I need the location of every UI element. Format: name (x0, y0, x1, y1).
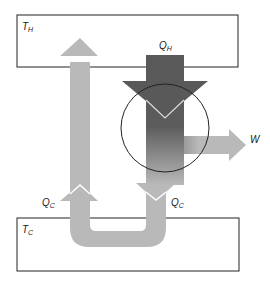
hot-flow-shaft (146, 55, 184, 185)
heat-out-right-label: QC (171, 197, 185, 209)
hot-flow-arrowhead-icon (122, 81, 208, 117)
qc-right-arrowhead-icon (136, 183, 176, 201)
heat-engine-diagram: TH TC QH QC QC W (0, 0, 270, 281)
heat-out-left-label: QC (42, 197, 56, 209)
hot-reservoir-box (17, 15, 238, 67)
work-label: W (250, 134, 261, 145)
